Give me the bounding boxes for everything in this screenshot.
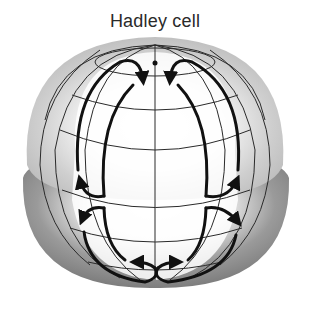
pole-convergence-point	[153, 61, 158, 66]
hadley-cell-globe	[0, 0, 310, 313]
